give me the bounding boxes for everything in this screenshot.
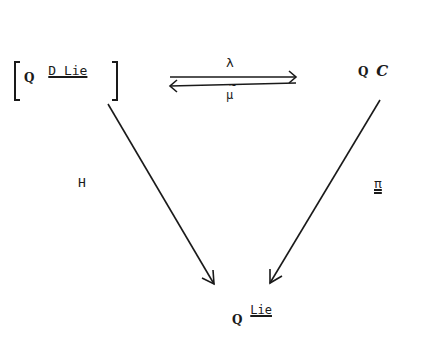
q-symbol: Q [24,71,34,85]
pi-label: π [374,176,382,191]
arrow-h [108,104,214,284]
node-q-lie: Q Lie [232,312,272,327]
h-label: H [78,175,86,190]
c-symbol: C [376,62,388,80]
lie-superscript: Lie [250,303,272,317]
left-bracket [15,62,20,100]
mu-label: μ [226,88,233,102]
arrow-pi [270,100,380,283]
right-bracket [112,62,117,100]
d-lie-label: D Lie [48,63,87,78]
node-q-d-lie: Q D Lie [24,70,87,85]
q-symbol: Q [358,65,368,79]
lambda-label: λ [226,55,234,70]
arrows-layer [0,0,427,352]
node-q-c: Q C [358,62,388,80]
q-symbol: Q [232,313,242,327]
